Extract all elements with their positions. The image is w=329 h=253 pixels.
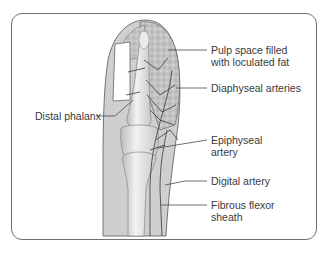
label-digital-artery: Digital artery	[211, 175, 270, 187]
label-epiphyseal-artery: Epiphyseal artery	[211, 134, 262, 158]
finger-illustration	[0, 0, 329, 253]
label-distal-phalanx: Distal phalanx	[35, 110, 101, 122]
label-sheath-line2: sheath	[211, 211, 275, 223]
label-pulp-space-line1: Pulp space filled	[211, 44, 289, 56]
label-epiphyseal-line2: artery	[211, 146, 262, 158]
nail	[113, 42, 130, 101]
label-sheath-line1: Fibrous flexor	[211, 199, 275, 211]
label-fibrous-flexor-sheath: Fibrous flexor sheath	[211, 199, 275, 223]
label-diaphyseal-arteries: Diaphyseal arteries	[211, 82, 301, 94]
label-epiphyseal-line1: Epiphyseal	[211, 134, 262, 146]
label-pulp-space-line2: with loculated fat	[211, 56, 289, 68]
label-pulp-space: Pulp space filled with loculated fat	[211, 44, 289, 68]
